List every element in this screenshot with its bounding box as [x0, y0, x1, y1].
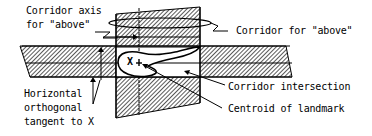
label-centroid-of-landmark: Centroid of landmark	[228, 103, 344, 115]
landmark-x-marker: X	[127, 56, 133, 68]
vertical-corridor-bottom	[116, 77, 200, 118]
label-horizontal-line1: Horizontal	[24, 88, 82, 100]
tangent-arrow-lower-head	[90, 77, 96, 82]
label-horizontal-line2: orthogonal	[24, 102, 82, 114]
label-corridor-for-above: Corridor for "above"	[236, 25, 352, 37]
label-corridor-intersection: Corridor intersection	[228, 81, 350, 93]
horizontal-corridor-right	[199, 46, 292, 77]
callout-corridor-leader	[211, 23, 228, 31]
label-corridor-axis-line2: for "above"	[26, 19, 90, 31]
tangent-leader-diagonal	[93, 80, 100, 104]
label-horizontal-line3: tangent to X	[24, 116, 94, 128]
label-corridor-axis-line1: Corridor axis	[26, 5, 102, 17]
